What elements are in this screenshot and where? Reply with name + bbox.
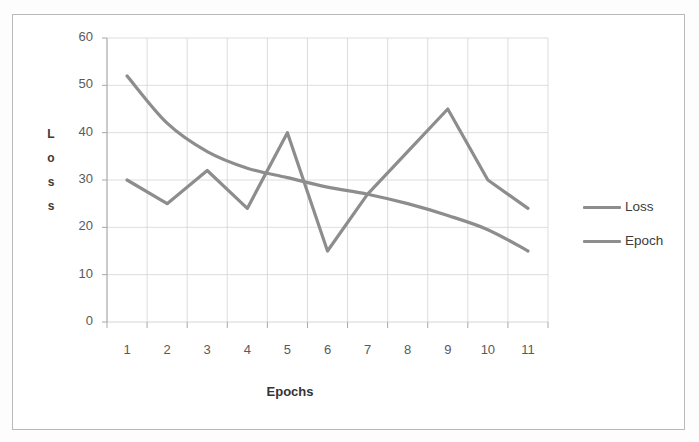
y-tick-label: 10 [59, 266, 93, 281]
y-axis-title-letter: s [42, 170, 60, 194]
x-tick-label: 8 [395, 342, 421, 357]
y-tick-label: 50 [59, 76, 93, 91]
y-tick-label: 20 [59, 218, 93, 233]
x-tick-label: 3 [194, 342, 220, 357]
legend-label-loss: Loss [625, 199, 654, 214]
x-tick-label: 11 [515, 342, 541, 357]
y-axis-title-letter: L [42, 122, 60, 146]
x-tick-label: 4 [234, 342, 260, 357]
axes-group [102, 38, 548, 328]
x-tick-label: 2 [154, 342, 180, 357]
x-tick-label: 10 [475, 342, 501, 357]
y-axis-title-letter: o [42, 146, 60, 170]
x-tick-label: 7 [355, 342, 381, 357]
x-tick-label: 9 [435, 342, 461, 357]
x-axis-title: Epochs [0, 384, 580, 399]
x-tick-label: 6 [315, 342, 341, 357]
y-tick-label: 40 [59, 124, 93, 139]
legend-label-epoch: Epoch [625, 233, 663, 248]
line-chart-canvas [0, 0, 699, 442]
legend-swatch-epoch [583, 240, 621, 243]
gridlines-group [107, 38, 548, 322]
legend-swatch-loss [583, 206, 621, 209]
y-tick-label: 30 [59, 171, 93, 186]
y-tick-label: 0 [59, 313, 93, 328]
x-tick-label: 5 [274, 342, 300, 357]
y-axis-title-letter: s [42, 194, 60, 218]
chart-figure: Loss Epochs 0102030405060 1234567891011 … [0, 0, 699, 442]
y-axis-title: Loss [42, 122, 60, 218]
x-tick-label: 1 [114, 342, 140, 357]
y-tick-label: 60 [59, 29, 93, 44]
